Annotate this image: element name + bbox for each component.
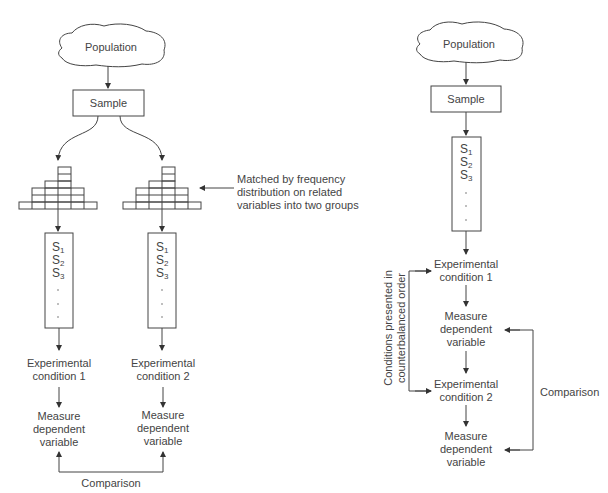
ellipsis-dot (161, 316, 163, 318)
subject-3-right: S3 (460, 169, 472, 185)
subject-3-group-1: S3 (52, 267, 64, 283)
histogram-group-1 (19, 167, 97, 209)
ellipsis-dot (161, 303, 163, 305)
counterbalance-label: Conditions presented incounterbalanced o… (382, 268, 408, 388)
ellipsis-dot (161, 289, 163, 291)
comparison-label-left: Comparison (71, 477, 151, 490)
experimental-condition-1-right: Experimentalcondition 1 (426, 258, 506, 284)
comparison-label-right: Comparison (540, 386, 599, 399)
measure-dependent-variable-1-right: Measuredependentvariable (426, 310, 506, 349)
experimental-condition-1-left: Experimentalcondition 1 (19, 357, 99, 383)
sample-label-right: Sample (431, 93, 501, 106)
measure-dependent-variable-1-left: Measuredependentvariable (19, 410, 99, 449)
ellipsis-dot (57, 316, 59, 318)
experimental-condition-2-right: Experimentalcondition 2 (426, 378, 506, 404)
ellipsis-dot (57, 289, 59, 291)
sample-label-left: Sample (73, 97, 144, 110)
histogram-annotation: Matched by frequency distribution on rel… (237, 173, 359, 212)
ellipsis-dot (465, 192, 467, 194)
ellipsis-dot (57, 303, 59, 305)
experimental-condition-2-left: Experimentalcondition 2 (123, 357, 203, 383)
population-label-right: Population (436, 38, 502, 51)
population-label-left: Population (78, 41, 144, 54)
ellipsis-dot (465, 205, 467, 207)
histogram-group-2 (123, 167, 201, 209)
ellipsis-dot (465, 219, 467, 221)
measure-dependent-variable-2-left: Measuredependentvariable (123, 409, 203, 448)
measure-dependent-variable-2-right: Measuredependentvariable (426, 430, 506, 469)
subject-3-group-2: S3 (156, 267, 168, 283)
